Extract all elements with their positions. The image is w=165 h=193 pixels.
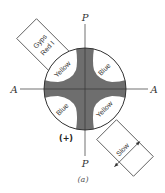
polarizer-label-bottom: P: [81, 158, 89, 169]
analyzer-label-right: A: [149, 84, 157, 95]
analyzer-label-left: A: [9, 84, 17, 95]
polarizer-label-top: P: [81, 12, 89, 23]
optic-sign-label: (+): [59, 134, 73, 143]
figure-caption: (a): [77, 175, 88, 184]
interference-figure-diagram: Gyps Red I Slow Yellow Blue Blue Yellow …: [0, 0, 165, 193]
